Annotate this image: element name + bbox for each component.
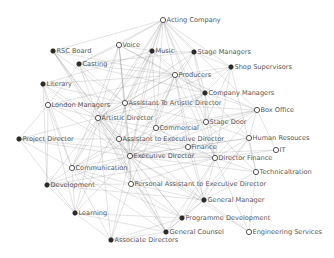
edge-artistic-director-communication	[72, 118, 98, 168]
node-company-managers[interactable]: Company Managers	[203, 89, 275, 97]
hollow-node-marker-icon[interactable]	[212, 155, 217, 160]
node-shop-supervisors[interactable]: Shop Supervisors	[229, 63, 293, 71]
edge-acting-company-shop-supervisors	[163, 20, 231, 67]
filled-node-marker-icon[interactable]	[41, 82, 45, 86]
node-learning[interactable]: Learning	[73, 209, 107, 217]
node-general-manager[interactable]: General Manager	[202, 196, 265, 204]
node-general-counsel[interactable]: General Counsel	[164, 228, 224, 236]
node-label: IT	[280, 146, 287, 154]
filled-node-marker-icon[interactable]	[73, 211, 77, 215]
node-box-office[interactable]: Box Office	[254, 106, 294, 114]
node-finance[interactable]: Finance	[185, 143, 216, 151]
hollow-node-marker-icon[interactable]	[69, 165, 74, 170]
node-programme-development[interactable]: Programme Development	[180, 214, 271, 222]
node-development[interactable]: Development	[45, 181, 96, 189]
hollow-node-marker-icon[interactable]	[254, 107, 259, 112]
edge-acting-company-casting	[79, 20, 163, 64]
node-label: Project Director	[23, 135, 74, 143]
node-communication[interactable]: Communication	[69, 164, 127, 172]
hollow-node-marker-icon[interactable]	[122, 100, 127, 105]
hollow-node-marker-icon[interactable]	[153, 125, 158, 130]
filled-node-marker-icon[interactable]	[192, 50, 196, 54]
node-personal-assistant-to-executive-director[interactable]: Personal Assistant to Executive Director	[128, 180, 266, 188]
node-literary[interactable]: Literary	[41, 80, 72, 88]
edge-personal-assistant-to-executive-director-programme-development	[131, 184, 182, 218]
filled-node-marker-icon[interactable]	[203, 91, 207, 95]
node-label: Voice	[123, 41, 141, 49]
node-casting[interactable]: Casting	[77, 60, 108, 68]
edge-personal-assistant-to-executive-director-associate-directors	[111, 184, 131, 240]
node-human-resouces[interactable]: Human Resouces	[246, 134, 310, 142]
node-label: Stage Managers	[198, 48, 252, 56]
node-associate-directors[interactable]: Associate Directors	[109, 236, 179, 244]
filled-node-marker-icon[interactable]	[164, 230, 168, 234]
node-executive-director[interactable]: Executive Director	[127, 152, 194, 160]
node-stage-managers[interactable]: Stage Managers	[192, 48, 252, 56]
hollow-node-marker-icon[interactable]	[246, 135, 251, 140]
edge-stage-managers-stage-door	[194, 52, 206, 122]
edge-acting-company-assistant-to-artistic-director	[125, 20, 163, 103]
hollow-node-marker-icon[interactable]	[160, 17, 165, 22]
node-label: Commercial	[160, 124, 200, 132]
node-assistant-to-artistic-director[interactable]: Assistant To Artistic Director	[122, 99, 221, 107]
node-producers[interactable]: Producers	[172, 71, 211, 79]
filled-node-marker-icon[interactable]	[180, 216, 184, 220]
edge-london-managers-learning	[48, 105, 75, 213]
node-director-finance[interactable]: Director Finance	[212, 154, 272, 162]
filled-node-marker-icon[interactable]	[51, 49, 55, 53]
hollow-node-marker-icon[interactable]	[185, 144, 190, 149]
node-label: Finance	[192, 143, 217, 151]
filled-node-marker-icon[interactable]	[77, 62, 81, 66]
node-commercial[interactable]: Commercial	[153, 124, 199, 132]
edge-box-office-it	[257, 110, 276, 150]
edge-box-office-director-finance	[215, 110, 257, 158]
node-it[interactable]: IT	[273, 146, 286, 154]
node-engineering-services[interactable]: Engineering Services	[246, 228, 322, 236]
node-assistant-to-executive-director[interactable]: Assistant to Executive Director	[116, 135, 224, 143]
node-label: Learning	[79, 209, 108, 217]
node-label: Development	[51, 181, 96, 189]
node-artistic-director[interactable]: Artistic Director	[95, 114, 153, 122]
filled-node-marker-icon[interactable]	[202, 198, 206, 202]
node-label: Personal Assistant to Executive Director	[135, 180, 267, 188]
node-label: RSC Board	[57, 47, 92, 55]
filled-node-marker-icon[interactable]	[150, 49, 154, 53]
node-label: Producers	[179, 71, 212, 79]
hollow-node-marker-icon[interactable]	[172, 72, 177, 77]
node-london-managers[interactable]: London Managers	[45, 101, 110, 109]
node-rsc-board[interactable]: RSC Board	[51, 47, 92, 55]
hollow-node-marker-icon[interactable]	[203, 119, 208, 124]
hollow-node-marker-icon[interactable]	[128, 181, 133, 186]
hollow-node-marker-icon[interactable]	[253, 169, 258, 174]
hollow-node-marker-icon[interactable]	[45, 102, 50, 107]
node-stage-door[interactable]: Stage Door	[203, 118, 246, 126]
edge-acting-company-company-managers	[163, 20, 205, 93]
edge-director-finance-general-manager	[204, 158, 215, 200]
filled-node-marker-icon[interactable]	[17, 137, 21, 141]
node-label: London Managers	[52, 101, 111, 109]
node-label: Communication	[76, 164, 128, 172]
node-technicaltration[interactable]: Technicaltration	[253, 168, 311, 176]
hollow-node-marker-icon[interactable]	[273, 147, 278, 152]
hollow-node-marker-icon[interactable]	[127, 153, 132, 158]
hollow-node-marker-icon[interactable]	[95, 115, 100, 120]
hollow-node-marker-icon[interactable]	[116, 136, 121, 141]
hollow-node-marker-icon[interactable]	[246, 229, 251, 234]
node-project-director[interactable]: Project Director	[17, 135, 74, 143]
node-label: Artistic Director	[102, 114, 154, 122]
node-acting-company[interactable]: Acting Company	[160, 16, 220, 24]
node-label: Programme Development	[186, 214, 271, 222]
filled-node-marker-icon[interactable]	[45, 183, 49, 187]
node-label: Acting Company	[167, 16, 221, 24]
filled-node-marker-icon[interactable]	[109, 238, 113, 242]
graph-nodes: Acting CompanyVoiceMusicStage ManagersRS…	[17, 16, 323, 244]
filled-node-marker-icon[interactable]	[229, 65, 233, 69]
node-music[interactable]: Music	[150, 47, 175, 55]
hollow-node-marker-icon[interactable]	[116, 42, 121, 47]
node-label: Music	[156, 47, 175, 55]
node-label: Literary	[47, 80, 73, 88]
node-label: Human Resouces	[253, 134, 311, 142]
node-voice[interactable]: Voice	[116, 41, 140, 49]
edge-london-managers-development	[47, 105, 48, 185]
node-label: General Manager	[208, 196, 265, 204]
